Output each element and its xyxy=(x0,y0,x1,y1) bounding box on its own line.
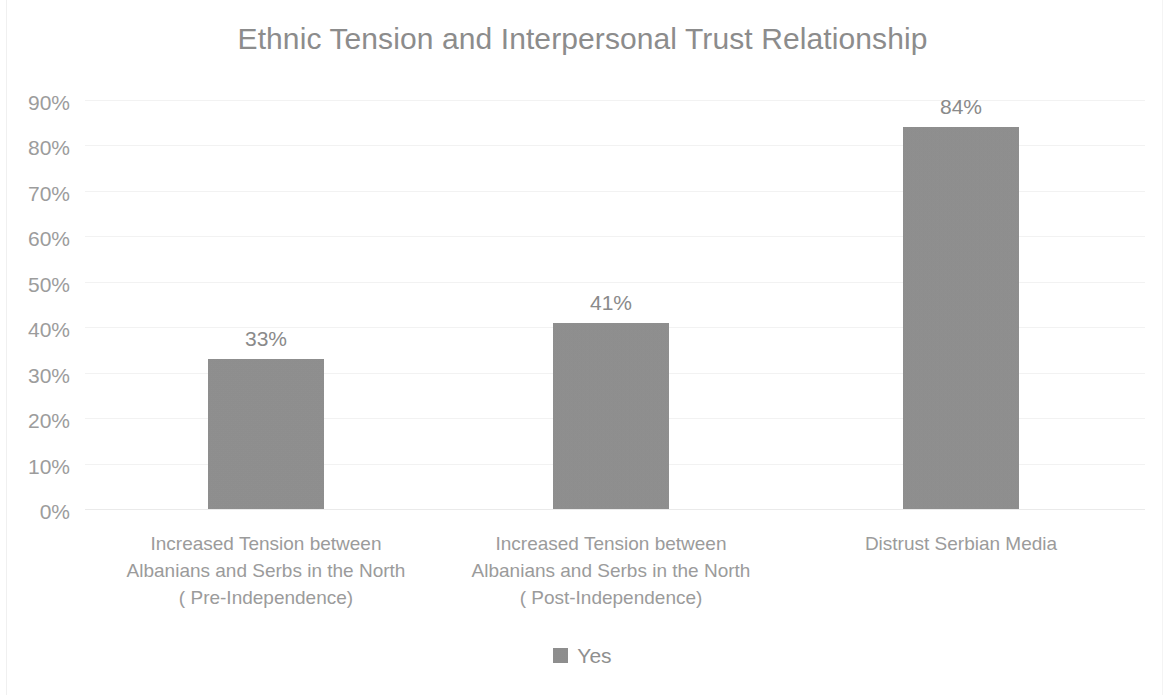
bar-value-label-1: 33% xyxy=(208,328,324,349)
legend-label-yes[interactable]: Yes xyxy=(577,645,611,666)
legend-swatch-yes xyxy=(553,648,568,663)
x-category-label-1: Increased Tension between Albanians and … xyxy=(78,531,454,612)
bar-value-label-2: 41% xyxy=(553,292,669,313)
x-category-label-3: Distrust Serbian Media xyxy=(773,531,1149,558)
bar-chart: Ethnic Tension and Interpersonal Trust R… xyxy=(0,0,1165,695)
bar-value-label-3: 84% xyxy=(903,96,1019,117)
bar-increased-tension-post-independence[interactable] xyxy=(553,323,669,509)
x-category-label-2: Increased Tension between Albanians and … xyxy=(423,531,799,612)
bar-increased-tension-pre-independence[interactable] xyxy=(208,359,324,509)
bar-distrust-serbian-media[interactable] xyxy=(903,127,1019,509)
chart-legend: Yes xyxy=(0,645,1165,666)
